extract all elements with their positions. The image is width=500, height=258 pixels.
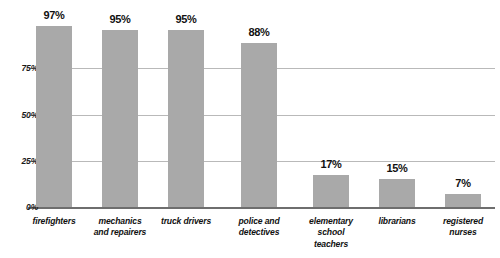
category-label-police-and-detectives: police and detectives <box>221 216 297 239</box>
y-tick-label-50: 50% <box>4 110 38 120</box>
category-label-line: nurses <box>425 227 500 238</box>
bar-truck-drivers <box>168 30 204 207</box>
category-label-line: elementary <box>293 216 369 227</box>
bar-value-librarians: 15% <box>373 162 421 174</box>
category-label-registered-nurses: registered nurses <box>425 216 500 239</box>
category-label-line: and repairers <box>82 227 158 238</box>
category-label-mechanics-and-repairers: mechanics and repairers <box>82 216 158 239</box>
bar-value-firefighters: 97% <box>30 9 78 21</box>
category-label-elementary-school-teachers: elementary school teachers <box>293 216 369 250</box>
category-label-firefighters: firefighters <box>16 216 92 227</box>
bar-police-and-detectives <box>241 43 277 207</box>
category-label-line: registered <box>425 216 500 227</box>
category-label-line: truck drivers <box>148 216 224 227</box>
bar-chart: 75% 50% 25% 0% 97% 95% 95% 88% 17% 15% 7… <box>0 0 500 258</box>
category-label-line: detectives <box>221 227 297 238</box>
bar-registered-nurses <box>445 194 481 207</box>
bar-mechanics-and-repairers <box>102 30 138 207</box>
bar-value-elementary-school-teachers: 17% <box>307 158 355 170</box>
category-label-librarians: librarians <box>359 216 435 227</box>
bar-firefighters <box>36 26 72 207</box>
y-tick-label-75: 75% <box>4 63 38 73</box>
category-label-line: police and <box>221 216 297 227</box>
bar-value-truck-drivers: 95% <box>162 13 210 25</box>
bar-librarians <box>379 179 415 207</box>
category-label-line: school <box>293 227 369 238</box>
bar-value-police-and-detectives: 88% <box>235 26 283 38</box>
x-axis-baseline <box>28 207 495 209</box>
category-label-line: librarians <box>359 216 435 227</box>
category-label-line: mechanics <box>82 216 158 227</box>
category-label-line: teachers <box>293 239 369 250</box>
bar-elementary-school-teachers <box>313 175 349 207</box>
y-tick-label-25: 25% <box>4 156 38 166</box>
category-label-line: firefighters <box>16 216 92 227</box>
category-label-truck-drivers: truck drivers <box>148 216 224 227</box>
y-tick-label-0: 0% <box>4 202 38 212</box>
bar-value-registered-nurses: 7% <box>439 177 487 189</box>
bar-value-mechanics-and-repairers: 95% <box>96 13 144 25</box>
